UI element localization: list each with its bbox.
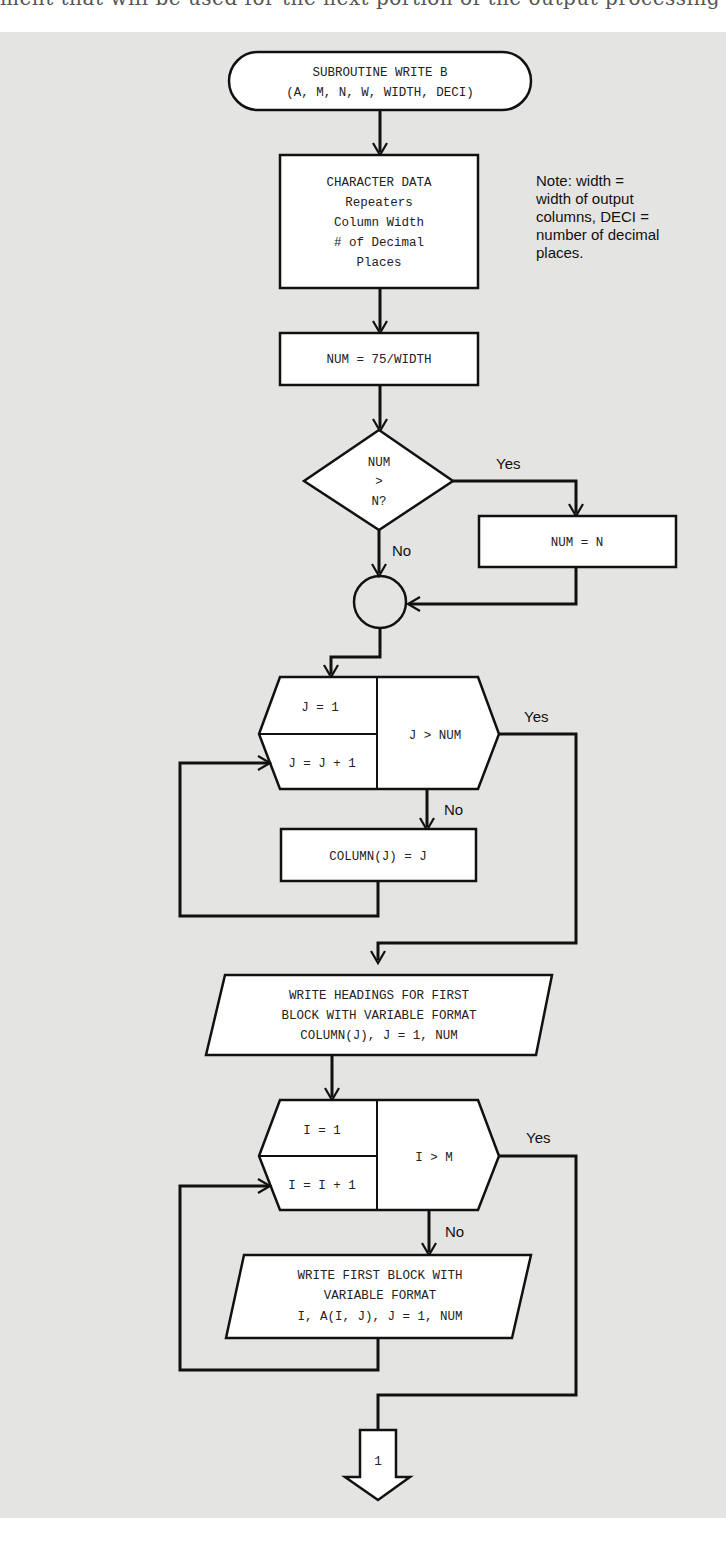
- num-assign-text: NUM = 75/WIDTH: [326, 353, 431, 367]
- note-line-4: number of decimal: [536, 226, 659, 243]
- start-line-1: SUBROUTINE WRITE B: [312, 66, 448, 80]
- character-data-box: CHARACTER DATA Repeaters Column Width # …: [280, 155, 478, 288]
- write-headings-line-2: BLOCK WITH VARIABLE FORMAT: [281, 1009, 477, 1023]
- write-block-line-1: WRITE FIRST BLOCK WITH: [297, 1269, 462, 1283]
- loop-j-box: J = 1 J = J + 1 J > NUM: [259, 677, 499, 789]
- char-data-line-5: Places: [356, 256, 401, 270]
- write-block-io: WRITE FIRST BLOCK WITH VARIABLE FORMAT I…: [226, 1255, 531, 1338]
- decision-no-label: No: [392, 542, 411, 559]
- column-assign-text: COLUMN(J) = J: [329, 850, 427, 864]
- loop-j-test: J > NUM: [409, 729, 462, 743]
- loop-j-no-label: No: [444, 801, 463, 818]
- write-headings-line-3: COLUMN(J), J = 1, NUM: [300, 1029, 458, 1043]
- loop-i-increment: I = I + 1: [288, 1179, 356, 1193]
- write-headings-line-1: WRITE HEADINGS FOR FIRST: [289, 989, 470, 1003]
- num-eq-n-text: NUM = N: [551, 536, 604, 550]
- decision-num-gt-n: NUM > N?: [304, 430, 453, 530]
- char-data-line-2: Repeaters: [345, 196, 413, 210]
- decision-line-3: N?: [371, 495, 386, 509]
- offpage-connector-label: 1: [374, 1455, 382, 1469]
- loop-i-test: I > M: [415, 1151, 453, 1165]
- loop-i-yes-label: Yes: [526, 1129, 550, 1146]
- char-data-line-4: # of Decimal: [334, 236, 424, 250]
- write-block-line-3: I, A(I, J), J = 1, NUM: [297, 1310, 462, 1324]
- note-line-3: columns, DECI =: [536, 208, 649, 225]
- offpage-connector-arrow-icon: 1: [345, 1430, 410, 1500]
- loop-i-init: I = 1: [303, 1124, 341, 1138]
- decision-line-1: NUM: [368, 456, 391, 470]
- column-assign-box: COLUMN(J) = J: [281, 829, 476, 881]
- write-headings-io: WRITE HEADINGS FOR FIRST BLOCK WITH VARI…: [206, 975, 552, 1055]
- char-data-line-3: Column Width: [334, 216, 424, 230]
- note-line-2: width of output: [535, 190, 634, 207]
- decision-yes-label: Yes: [496, 455, 520, 472]
- char-data-line-1: CHARACTER DATA: [326, 176, 432, 190]
- write-block-line-2: VARIABLE FORMAT: [324, 1289, 437, 1303]
- note-annotation: Note: width = width of output columns, D…: [535, 172, 659, 261]
- start-line-2: (A, M, N, W, WIDTH, DECI): [286, 86, 474, 100]
- loop-j-increment: J = J + 1: [288, 757, 356, 771]
- loop-i-box: I = 1 I = I + 1 I > M: [259, 1100, 499, 1210]
- yes-branch-line: [453, 481, 576, 513]
- note-line-5: places.: [536, 244, 584, 261]
- loop-j-yes-label: Yes: [524, 708, 548, 725]
- loop-i-no-label: No: [445, 1223, 464, 1240]
- connector-line: [331, 628, 380, 674]
- num-assign-box: NUM = 75/WIDTH: [280, 333, 478, 385]
- start-terminator: SUBROUTINE WRITE B (A, M, N, W, WIDTH, D…: [229, 52, 531, 110]
- merge-line: [409, 567, 576, 604]
- num-eq-n-box: NUM = N: [479, 516, 676, 567]
- decision-line-2: >: [375, 475, 383, 489]
- flowchart: SUBROUTINE WRITE B (A, M, N, W, WIDTH, D…: [0, 0, 726, 1544]
- note-line-1: Note: width =: [536, 172, 624, 189]
- join-connector-circle: [354, 576, 406, 628]
- loop-j-init: J = 1: [301, 701, 339, 715]
